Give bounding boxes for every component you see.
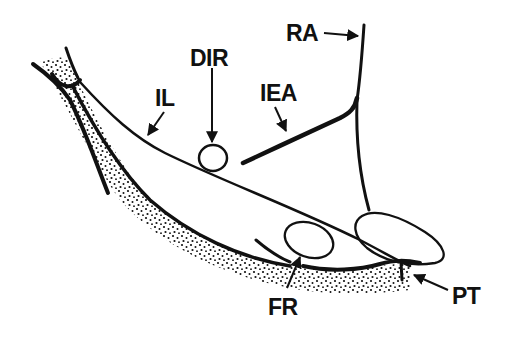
label-pt: PT [452,285,480,308]
inguinal-anatomy-diagram [0,0,512,340]
label-ra: RA [286,22,318,45]
label-fr: FR [268,296,298,319]
label-dir: DIR [190,47,228,70]
label-il: IL [155,87,174,110]
il-arrow [148,112,164,135]
pt-arrow [414,275,448,290]
iea-arrow [275,107,286,131]
ra-arrow [324,33,358,36]
rectus-abdominis-line [357,25,369,210]
stippled-bone-band [40,57,410,293]
pubic-tubercle-ellipse [355,213,443,264]
deep-inguinal-ring-circle [199,145,227,171]
inferior-epigastric-artery-line [243,98,357,163]
label-iea: IEA [260,82,297,105]
femoral-ring-ellipse [280,215,339,264]
pubic-tubercle-tick [401,262,402,280]
